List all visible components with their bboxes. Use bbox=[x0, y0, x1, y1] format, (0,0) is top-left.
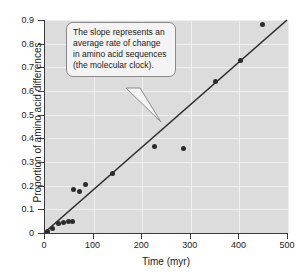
slope-callout-box: The slope represents an average rate of … bbox=[66, 22, 176, 77]
chart-figure: 00.10.20.30.40.50.60.70.80.9010020030040… bbox=[0, 0, 296, 278]
slope-callout-text: The slope represents an average rate of … bbox=[73, 27, 169, 71]
callout-tail-pointer bbox=[126, 88, 161, 122]
